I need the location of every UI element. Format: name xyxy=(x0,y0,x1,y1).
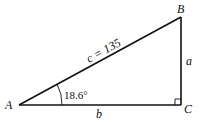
angle-arc xyxy=(57,84,62,105)
vertex-label-a: A xyxy=(4,98,13,112)
vertex-label-b: B xyxy=(177,2,185,16)
side-label-a: a xyxy=(186,54,192,68)
triangle-sides xyxy=(19,17,181,105)
side-c-hypotenuse xyxy=(19,17,181,105)
right-angle-marker xyxy=(175,99,181,105)
angle-label: 18.6° xyxy=(64,89,88,101)
side-label-b: b xyxy=(96,107,102,121)
vertex-label-c: C xyxy=(184,102,193,116)
triangle-diagram: A B C a b c = 135 18.6° xyxy=(0,0,204,124)
side-label-c: c = 135 xyxy=(84,35,124,65)
